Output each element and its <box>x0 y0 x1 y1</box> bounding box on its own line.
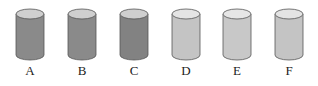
cylinder-icon <box>222 8 252 62</box>
cylinder-icon <box>274 8 304 62</box>
cylinder-icon <box>171 8 201 62</box>
cylinder-label: C <box>119 63 149 79</box>
cylinder-a <box>15 8 45 62</box>
cylinder-icon <box>15 8 45 62</box>
cylinder-icon <box>67 8 97 62</box>
cylinder-label: F <box>274 63 304 79</box>
cylinder-label: D <box>171 63 201 79</box>
cylinder-e <box>222 8 252 62</box>
cylinder-label: A <box>15 63 45 79</box>
cylinder-label: B <box>67 63 97 79</box>
cylinder-d <box>171 8 201 62</box>
cylinder-c <box>119 8 149 62</box>
cylinder-icon <box>119 8 149 62</box>
cylinder-label: E <box>222 63 252 79</box>
cylinder-b <box>67 8 97 62</box>
cylinder-f <box>274 8 304 62</box>
